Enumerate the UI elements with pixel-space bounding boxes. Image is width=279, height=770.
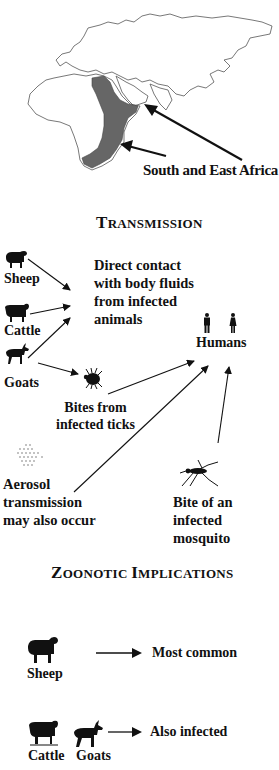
humans-label: Humans xyxy=(196,334,247,351)
animal-label-cattle: Cattle xyxy=(4,322,41,339)
mosquito-icon xyxy=(178,460,220,488)
sheep-icon xyxy=(4,250,28,270)
direct-contact-label: Direct contact with body fluids from inf… xyxy=(94,256,194,328)
animal-label-sheep: Sheep xyxy=(4,270,40,287)
sheep-icon xyxy=(27,636,59,664)
zoonotic-sheep-label: Sheep xyxy=(27,665,63,682)
animal-label-goats: Goats xyxy=(4,374,39,391)
row1-arrow xyxy=(96,648,144,658)
aerosol-label: Aerosol transmission may also occur xyxy=(3,475,96,529)
cattle-icon xyxy=(28,720,60,746)
also-infected-label: Also infected xyxy=(150,723,227,740)
zoonotic-goats-label: Goats xyxy=(76,747,111,764)
zoonotic-title: ZOONOTIC IMPLICATIONS xyxy=(51,563,234,583)
mosquito-label: Bite of an infected mosquito xyxy=(173,493,233,547)
row2-arrow xyxy=(108,727,144,737)
goat-icon xyxy=(4,343,30,365)
goat-icon xyxy=(72,720,104,748)
most-common-label: Most common xyxy=(152,644,237,661)
aerosol-icon xyxy=(8,443,48,469)
female-human-icon xyxy=(229,313,237,333)
tick-icon xyxy=(80,367,104,389)
cattle-icon xyxy=(4,303,30,323)
ticks-label: Bites from infected ticks xyxy=(56,399,135,433)
zoonotic-cattle-label: Cattle xyxy=(28,747,65,764)
male-human-icon xyxy=(203,313,211,333)
